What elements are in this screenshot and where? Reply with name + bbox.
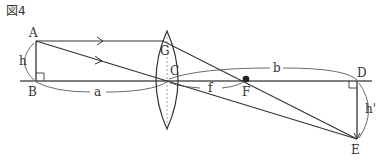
label-g-point: G: [160, 44, 170, 58]
label-e-point: E: [351, 143, 360, 157]
center-ray: [36, 41, 357, 139]
right-angle-mark-d: [349, 81, 357, 88]
label-a-point: A: [28, 26, 38, 40]
label-c-point: C: [170, 64, 179, 78]
figure-title: 図4: [6, 4, 26, 18]
label-b-point: B: [28, 85, 37, 99]
right-angle-mark-b: [36, 73, 44, 81]
a-brace-right: [106, 82, 167, 92]
label-f-length: f: [208, 81, 214, 95]
label-f-point: F: [242, 85, 250, 99]
label-b-length: b: [273, 61, 281, 75]
label-h-prime: h': [365, 102, 376, 116]
b-brace-left: [169, 68, 270, 79]
label-d-point: D: [357, 66, 367, 80]
label-h: h: [19, 54, 27, 68]
focal-point-dot: [243, 76, 250, 83]
label-a-length: a: [94, 85, 101, 99]
a-brace-left: [36, 82, 90, 92]
b-brace-right: [283, 68, 357, 80]
convex-lens-diagram: 図4 A B C D E F G h h' a b f: [0, 0, 387, 163]
